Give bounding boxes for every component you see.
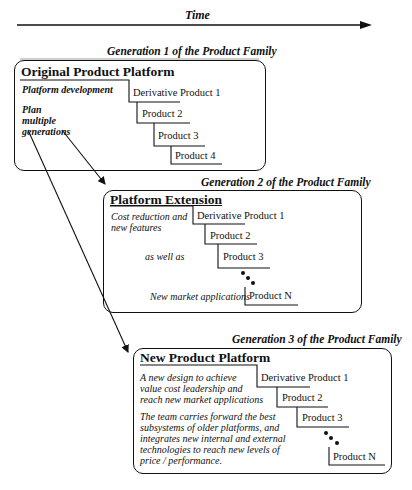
gen1-product: Product 2: [142, 108, 183, 119]
gen1-product: Product 4: [175, 150, 216, 161]
gen2-product: Product N: [249, 290, 292, 301]
gen3-desc-line: price / performance.: [140, 455, 222, 466]
gen3-desc-line: The team carries forward the best: [140, 411, 275, 422]
gen1-product: Derivative Product 1: [133, 87, 220, 98]
gen2-desc-line: Cost reduction and: [111, 211, 187, 222]
gen2-desc-line: New market applications: [150, 291, 250, 302]
gen3-title: Generation 3 of the Product Family: [232, 333, 402, 345]
gen3-desc-line: integrates new internal and external: [140, 433, 286, 444]
gen1-product: Product 3: [158, 130, 199, 141]
gen2-platform-heading: Platform Extension: [110, 192, 222, 208]
gen2-product: Product 3: [223, 251, 264, 262]
gen1-desc-line: multiple: [22, 115, 56, 126]
gen1-title: Generation 1 of the Product Family: [107, 45, 277, 57]
gen2-product: Product 2: [210, 230, 251, 241]
time-label: Time: [185, 8, 210, 23]
gen3-product: Product 3: [302, 412, 343, 423]
gen3-product: Product 2: [282, 392, 323, 403]
gen3-product: Derivative Product 1: [261, 372, 348, 383]
gen1-desc-line: Plan: [22, 104, 41, 115]
gen3-desc-line: subsystems of older platforms, and: [140, 422, 279, 433]
gen2-product: Derivative Product 1: [197, 210, 284, 221]
gen3-desc-line: value cost leadership and: [140, 383, 242, 394]
gen3-desc-line: technologies to reach new levels of: [140, 444, 280, 455]
gen3-product: Product N: [333, 451, 376, 462]
gen1-desc-line: generations: [22, 126, 70, 137]
gen2-desc-line: as well as: [145, 251, 184, 262]
gen1-platform-heading: Original Product Platform: [21, 64, 174, 80]
gen3-platform-heading: New Product Platform: [140, 350, 270, 366]
gen3-desc-line: reach new market applications: [140, 394, 263, 405]
gen3-desc-line: A new design to achieve: [140, 372, 236, 383]
gen2-title: Generation 2 of the Product Family: [201, 176, 371, 188]
gen1-desc-line: Platform development: [22, 84, 113, 95]
gen2-desc-line: new features: [111, 222, 161, 233]
